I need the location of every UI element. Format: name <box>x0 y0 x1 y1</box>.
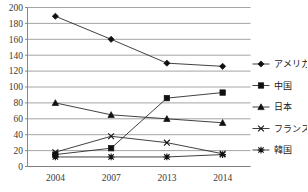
y-axis-tick-label: 140 <box>9 51 24 61</box>
y-axis-tick-label: 20 <box>14 146 24 156</box>
y-axis-tick-label: 0 <box>18 162 23 172</box>
series-line <box>55 103 222 123</box>
square-marker <box>258 83 263 88</box>
legend-item-label: フランス <box>274 124 308 134</box>
square-marker <box>164 95 169 100</box>
x-axis-category-labels: 2004200720132014 <box>46 173 233 183</box>
star-marker <box>52 154 59 161</box>
y-axis-tick-label: 80 <box>14 98 24 108</box>
diamond-marker <box>52 13 58 19</box>
y-axis-tick-labels: 020406080100120140160180200 <box>9 3 24 172</box>
y-axis-tick-label: 40 <box>14 130 24 140</box>
y-axis-tick-label: 160 <box>9 35 24 45</box>
star-marker <box>164 154 171 161</box>
y-axis-tick-label: 60 <box>14 114 24 124</box>
legend-item-label: 日本 <box>274 101 292 112</box>
legend-item-label: アメリカ <box>274 59 308 69</box>
series-line <box>55 155 222 157</box>
y-axis-tick-label: 100 <box>9 82 24 92</box>
line-chart: 020406080100120140160180200 200420072013… <box>0 0 307 192</box>
chart-legend: アメリカ中国日本フランス韓国 <box>253 59 308 155</box>
diamond-marker <box>258 61 264 67</box>
chart-canvas: 020406080100120140160180200 200420072013… <box>0 0 307 192</box>
star-marker <box>258 147 265 154</box>
series-line <box>55 136 222 153</box>
star-marker <box>219 151 226 158</box>
diamond-marker <box>220 63 226 69</box>
y-axis-tick-label: 180 <box>9 19 24 29</box>
diamond-marker <box>108 36 114 42</box>
x-axis-category-label: 2007 <box>102 173 121 183</box>
legend-item-label: 韓国 <box>274 145 292 155</box>
square-marker <box>108 146 113 151</box>
legend-item-label: 中国 <box>274 80 292 91</box>
y-axis-tick-label: 200 <box>9 3 24 13</box>
y-axis-tick-label: 120 <box>9 66 24 76</box>
x-axis-category-label: 2014 <box>213 173 232 183</box>
square-marker <box>220 90 225 95</box>
x-axis-category-label: 2013 <box>157 173 176 183</box>
star-marker <box>108 154 115 161</box>
diamond-marker <box>164 60 170 66</box>
gridlines-group <box>28 8 251 167</box>
x-axis-category-label: 2004 <box>46 173 65 183</box>
